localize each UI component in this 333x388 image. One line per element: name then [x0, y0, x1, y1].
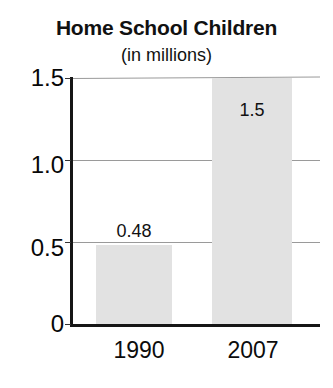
x-axis-tick-label-2007: 2007 [198, 337, 308, 363]
bar-1990 [96, 245, 172, 324]
bar-chart-figure: Home School Children (in millions) 1.5 1… [0, 0, 333, 388]
y-axis-tick-labels: 1.5 1.0 0.5 0 [0, 0, 64, 388]
y-axis-tick-label-1.0: 1.0 [31, 152, 64, 178]
y-axis-tick-label-0.5: 0.5 [31, 235, 64, 261]
y-axis-tick-label-0: 0 [51, 311, 64, 337]
bar-value-label-1990: 0.48 [87, 221, 181, 241]
plot-area: 0.48 1.5 [71, 78, 320, 325]
y-axis-tick-mark-1.5 [65, 78, 71, 79]
y-axis-tick-mark-1.0 [65, 160, 71, 161]
y-axis-line [70, 77, 73, 326]
bar-value-label-2007: 1.5 [212, 100, 292, 120]
y-axis-tick-mark-0 [65, 324, 71, 325]
y-axis-tick-mark-0.5 [65, 242, 71, 243]
x-axis-tick-label-1990: 1990 [84, 337, 194, 363]
x-axis-line [70, 324, 320, 327]
y-axis-tick-label-1.5: 1.5 [31, 65, 64, 91]
